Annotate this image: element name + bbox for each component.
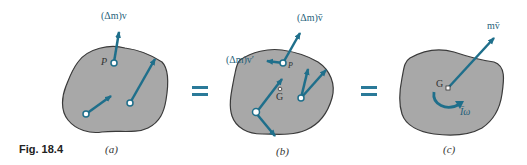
equals-sign-2	[361, 86, 377, 96]
center-label-b: G	[276, 91, 283, 102]
vector-label-b-prime: (Δm)v′	[226, 54, 254, 65]
point-label-b: P	[288, 61, 293, 70]
center-of-mass-icon	[446, 86, 450, 90]
moment-label-c: Īω	[460, 106, 470, 117]
body-shape-c	[400, 50, 504, 135]
rigid-body-b	[230, 33, 333, 136]
panel-label-b: (b)	[276, 145, 289, 157]
particle-p-icon	[111, 60, 117, 66]
rigid-body-a	[63, 32, 168, 133]
figure-caption: Fig. 18.4	[19, 143, 63, 155]
center-label-c: G	[436, 78, 443, 89]
particle-icon	[127, 100, 133, 106]
vector-label-b-bar: (Δm)v̄	[297, 12, 323, 23]
vector-label-c: mv̄	[487, 20, 500, 31]
particle-icon	[298, 95, 304, 101]
equals-sign-1	[192, 86, 208, 96]
particle-p-icon	[280, 60, 286, 66]
particle-icon	[83, 111, 89, 117]
diagram-canvas	[0, 0, 527, 165]
rigid-body-c	[400, 38, 504, 135]
point-label-a: P	[101, 56, 107, 67]
panel-label-a: (a)	[105, 143, 118, 155]
particle-icon	[253, 109, 260, 116]
panel-label-c: (c)	[443, 143, 455, 155]
vector-label-a: (Δm)v	[101, 10, 127, 21]
